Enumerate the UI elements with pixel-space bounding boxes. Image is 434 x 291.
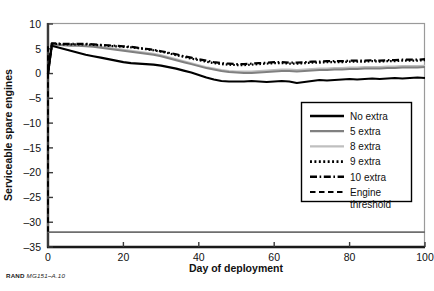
serviceable-spare-engines-line-chart: 1050–5–10–15–20–25–30–35 020406080100 Da… <box>0 0 434 291</box>
legend-label[interactable]: 8 extra <box>350 141 381 152</box>
source-note: RAND MG151–A.10 <box>6 272 65 279</box>
y-axis-title: Serviceable spare engines <box>2 69 14 201</box>
y-tick-label: –10 <box>23 117 41 129</box>
y-axis-tick-labels: 1050–5–10–15–20–25–30–35 <box>23 18 41 253</box>
legend-label[interactable]: Engine <box>350 187 382 198</box>
x-tick-label: 100 <box>416 251 434 263</box>
y-tick-label: –30 <box>23 216 41 228</box>
legend-label[interactable]: 9 extra <box>350 156 381 167</box>
y-tick-label: –5 <box>29 92 41 104</box>
y-tick-label: 10 <box>29 18 41 30</box>
source-note-prefix: RAND <box>6 272 25 279</box>
y-tick-label: –15 <box>23 142 41 154</box>
x-tick-label: 80 <box>344 251 356 263</box>
legend-label-continued[interactable]: threshold <box>350 199 391 210</box>
x-tick-label: 20 <box>118 251 130 263</box>
legend-label[interactable]: 10 extra <box>350 172 387 183</box>
legend-label[interactable]: 5 extra <box>350 126 381 137</box>
x-axis-title: Day of deployment <box>189 262 283 274</box>
legend-label[interactable]: No extra <box>350 111 388 122</box>
y-tick-label: 5 <box>35 43 41 55</box>
chart-legend[interactable]: No extra5 extra8 extra9 extra10 extraEng… <box>302 103 412 210</box>
y-tick-label: –35 <box>23 241 41 253</box>
y-tick-label: –25 <box>23 191 41 203</box>
y-tick-label: 0 <box>35 67 41 79</box>
x-tick-label: 0 <box>45 251 51 263</box>
figure-container: 1050–5–10–15–20–25–30–35 020406080100 Da… <box>0 0 434 291</box>
source-note-id: MG151–A.10 <box>27 272 65 279</box>
y-tick-label: –20 <box>23 166 41 178</box>
